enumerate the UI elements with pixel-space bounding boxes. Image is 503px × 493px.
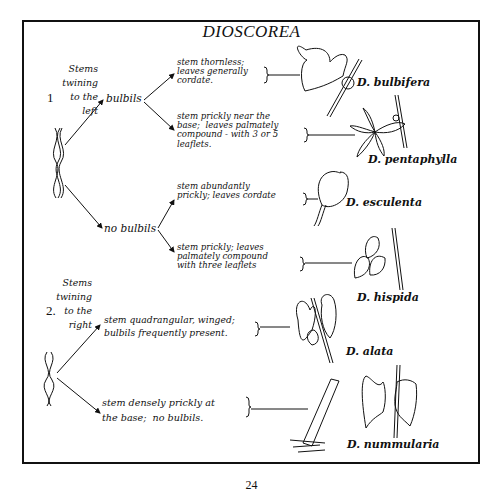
leaf-alata-icon [296,295,336,363]
twining-stem-left-icon [53,128,63,198]
arrow-to-no-bulbils [65,185,102,228]
arrow-to-alata [57,325,100,373]
leaf-esculenta-icon [314,172,348,226]
arrow-to-esculenta [158,200,174,228]
leaf-bulbifera-icon [297,46,362,117]
leaf-nummularia-icon [362,365,416,438]
arrow-to-nummularia [57,378,100,413]
arrow-to-hispida [158,230,174,252]
arrow-to-pentaphylla [144,102,174,130]
arrow-to-bulbifera [144,74,174,100]
arrow-to-bulbils [65,100,103,145]
leaf-hispida-icon [354,228,403,290]
stem-nummularia-icon [290,379,339,452]
twining-stem-right-icon [44,352,54,406]
leaf-pentaphylla-icon [350,95,407,157]
